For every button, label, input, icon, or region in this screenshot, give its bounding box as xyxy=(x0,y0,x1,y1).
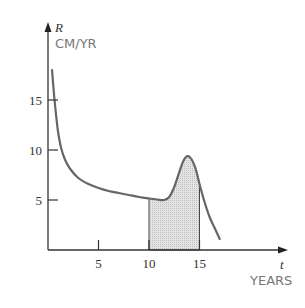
y-tick-label: 15 xyxy=(29,93,42,108)
shaded-area xyxy=(149,156,200,250)
x-tick-label: 15 xyxy=(193,256,206,271)
y-axis-arrow-icon xyxy=(45,22,52,32)
y-tick-label: 10 xyxy=(29,143,42,158)
x-axis-arrow-icon xyxy=(278,247,288,254)
x-tick-label: 10 xyxy=(143,256,156,271)
x-axis-unit: YEARS xyxy=(249,273,292,288)
y-axis-unit: CM/YR xyxy=(55,36,97,51)
y-axis-variable: R xyxy=(54,20,63,35)
x-axis-variable: t xyxy=(280,257,284,272)
chart: 5101551015 R CM/YR t YEARS xyxy=(0,0,305,308)
x-tick-label: 5 xyxy=(95,256,102,271)
y-tick-label: 5 xyxy=(36,193,43,208)
